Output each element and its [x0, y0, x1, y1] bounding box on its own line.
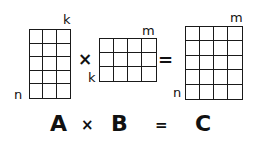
matrix-cell [200, 85, 214, 99]
matrix-cell [128, 53, 142, 67]
matrix-cell [214, 85, 228, 99]
matrix-cell [214, 27, 228, 41]
matrix-cell [30, 57, 43, 71]
matrix-cell [200, 41, 214, 55]
matrix-cell [43, 84, 56, 98]
matrix-cell [100, 67, 114, 81]
matrix-cell [43, 57, 56, 71]
matrix-c-grid [185, 26, 243, 100]
matrix-cell [200, 56, 214, 70]
matrix-cell [57, 84, 70, 98]
matrix-cell [142, 39, 156, 53]
matrix-cell [114, 39, 128, 53]
matrix-cell [43, 71, 56, 85]
matrix-cell [186, 56, 200, 70]
equation-b-label: B [111, 113, 128, 135]
equation-equals-label: = [155, 118, 168, 133]
matrix-cell [186, 85, 200, 99]
matrix-cell [100, 39, 114, 53]
matrix-cell [228, 56, 242, 70]
matrix-cell [228, 27, 242, 41]
matrix-a-grid [29, 29, 71, 99]
matrix-c-row-label: n [173, 86, 181, 99]
matrix-cell [214, 56, 228, 70]
matrix-cell [100, 53, 114, 67]
matrix-multiplication-diagram: k n × m k = m n A × B = C [0, 0, 253, 144]
matrix-cell [186, 41, 200, 55]
matrix-b-grid [99, 38, 157, 82]
equals-operator: = [158, 51, 173, 69]
matrix-cell [128, 39, 142, 53]
matrix-cell [200, 70, 214, 84]
matrix-cell [30, 71, 43, 85]
matrix-cell [57, 71, 70, 85]
matrix-cell [30, 44, 43, 58]
matrix-cell [186, 27, 200, 41]
matrix-cell [228, 85, 242, 99]
matrix-cell [57, 57, 70, 71]
matrix-cell [228, 41, 242, 55]
multiply-operator: × [78, 51, 92, 68]
matrix-cell [30, 84, 43, 98]
matrix-b-col-label: m [142, 24, 155, 37]
matrix-cell [200, 27, 214, 41]
matrix-cell [186, 70, 200, 84]
matrix-cell [57, 44, 70, 58]
matrix-cell [128, 67, 142, 81]
matrix-b-row-label: k [88, 71, 96, 84]
equation-c-label: C [195, 113, 211, 135]
matrix-cell [214, 41, 228, 55]
matrix-c-col-label: m [230, 11, 243, 24]
matrix-cell [43, 44, 56, 58]
matrix-a-col-label: k [63, 13, 71, 26]
matrix-cell [214, 70, 228, 84]
matrix-cell [57, 30, 70, 44]
matrix-cell [43, 30, 56, 44]
matrix-cell [142, 67, 156, 81]
matrix-cell [114, 67, 128, 81]
equation-multiply-label: × [81, 118, 94, 133]
equation-a-label: A [50, 113, 67, 135]
matrix-cell [30, 30, 43, 44]
matrix-cell [142, 53, 156, 67]
matrix-a-row-label: n [14, 88, 22, 101]
matrix-cell [228, 70, 242, 84]
matrix-cell [114, 53, 128, 67]
